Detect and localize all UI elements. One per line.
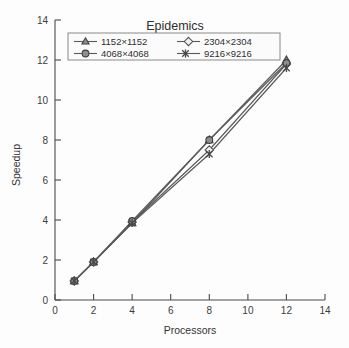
series-line-4068 <box>74 63 286 281</box>
legend-label: 2304×2304 <box>204 36 252 47</box>
y-tick-label: 14 <box>37 15 49 26</box>
chart-title: Epidemics <box>146 19 204 33</box>
chart-canvas: 0 2 4 6 8 10 12 14 0 2 4 6 <box>0 0 349 348</box>
y-tick-label: 10 <box>37 95 49 106</box>
y-tick-label: 12 <box>37 55 49 66</box>
x-tick-label: 4 <box>129 305 135 316</box>
y-tick-label: 2 <box>42 255 48 266</box>
cross-marker <box>283 64 290 72</box>
y-tick-label: 0 <box>42 295 48 306</box>
x-tick-label: 6 <box>168 305 174 316</box>
chart-figure: 0 2 4 6 8 10 12 14 0 2 4 6 <box>0 0 349 348</box>
legend: 1152×1152 2304×2304 4068×4068 <box>68 33 280 60</box>
y-axis-ticks: 0 2 4 6 8 10 12 14 <box>37 15 61 306</box>
series-group <box>74 60 286 281</box>
y-tick-label: 8 <box>42 135 48 146</box>
legend-label: 9216×9216 <box>204 48 252 59</box>
legend-entry-4068[interactable]: 4068×4068 <box>74 48 149 59</box>
x-tick-label: 10 <box>242 305 254 316</box>
x-tick-label: 14 <box>319 305 331 316</box>
circle-marker <box>82 50 89 57</box>
circle-marker <box>206 137 213 144</box>
x-tick-label: 0 <box>52 305 58 316</box>
legend-label: 1152×1152 <box>101 36 147 47</box>
y-tick-label: 6 <box>42 175 48 186</box>
x-tick-label: 8 <box>207 305 213 316</box>
x-tick-label: 2 <box>91 305 97 316</box>
legend-entry-2304[interactable]: 2304×2304 <box>177 36 252 47</box>
x-axis-title: Processors <box>164 324 217 336</box>
x-tick-label: 12 <box>281 305 293 316</box>
legend-label: 4068×4068 <box>101 48 149 59</box>
cross-marker <box>206 150 213 158</box>
y-tick-label: 4 <box>42 215 48 226</box>
x-axis-ticks: 0 2 4 6 8 10 12 14 <box>52 294 331 316</box>
y-axis-title: Speedup <box>10 144 22 186</box>
